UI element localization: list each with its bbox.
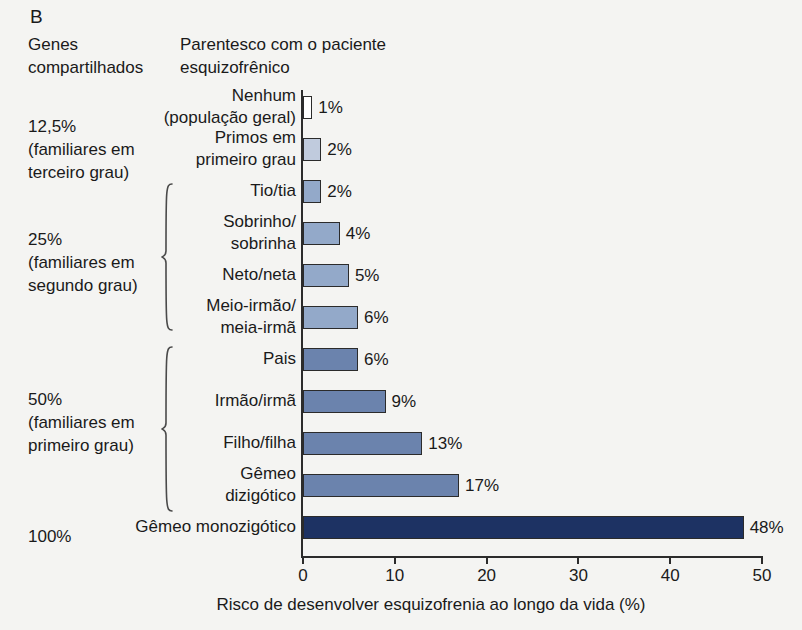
bar-value-label: 6% bbox=[364, 306, 389, 329]
bar bbox=[303, 516, 744, 539]
category-label: Sobrinho/ sobrinha bbox=[0, 211, 296, 255]
bar bbox=[303, 138, 321, 161]
bar bbox=[303, 474, 459, 497]
x-axis-tick bbox=[486, 556, 488, 564]
bar-value-label: 9% bbox=[392, 390, 417, 413]
bar bbox=[303, 390, 386, 413]
x-axis-line bbox=[303, 556, 762, 558]
bar bbox=[303, 432, 422, 455]
bar-value-label: 17% bbox=[465, 474, 499, 497]
x-axis-tick bbox=[761, 556, 763, 564]
bar-value-label: 2% bbox=[327, 180, 352, 203]
x-axis-tick-label: 40 bbox=[661, 566, 680, 586]
x-axis-tick-label: 10 bbox=[385, 566, 404, 586]
category-label: Nenhum (população geral) bbox=[0, 85, 296, 129]
bar bbox=[303, 180, 321, 203]
category-label: Gêmeo monozigótico bbox=[0, 516, 296, 538]
category-label: Primos em primeiro grau bbox=[0, 127, 296, 171]
bar-value-label: 4% bbox=[346, 222, 371, 245]
bar-value-label: 5% bbox=[355, 264, 380, 287]
bar-value-label: 1% bbox=[318, 96, 343, 119]
bar-value-label: 2% bbox=[327, 138, 352, 161]
category-label: Filho/filha bbox=[0, 432, 296, 454]
category-label: Tio/tia bbox=[0, 180, 296, 202]
x-axis-tick bbox=[577, 556, 579, 564]
bar bbox=[303, 264, 349, 287]
figure-panel-b: B Genes compartilhados Parentesco com o … bbox=[0, 0, 802, 630]
x-axis-tick bbox=[394, 556, 396, 564]
bar-value-label: 6% bbox=[364, 348, 389, 371]
bar bbox=[303, 96, 312, 119]
bar bbox=[303, 348, 358, 371]
category-label: Meio-irmão/ meia-irmã bbox=[0, 295, 296, 339]
bar bbox=[303, 222, 340, 245]
x-axis-tick-label: 20 bbox=[477, 566, 496, 586]
bar-chart-plot: Nenhum (população geral)Primos em primei… bbox=[0, 0, 802, 630]
bar-value-label: 13% bbox=[428, 432, 462, 455]
x-axis-title: Risco de desenvolver esquizofrenia ao lo… bbox=[0, 595, 802, 615]
x-axis-tick-label: 0 bbox=[298, 566, 307, 586]
category-label: Gêmeo dizigótico bbox=[0, 463, 296, 507]
x-axis-tick bbox=[302, 556, 304, 564]
x-axis-tick-label: 50 bbox=[753, 566, 772, 586]
y-axis-line bbox=[301, 90, 303, 558]
bar bbox=[303, 306, 358, 329]
x-axis-tick bbox=[669, 556, 671, 564]
category-label: Irmão/irmã bbox=[0, 390, 296, 412]
category-label: Neto/neta bbox=[0, 264, 296, 286]
category-label: Pais bbox=[0, 348, 296, 370]
x-axis-tick-label: 30 bbox=[569, 566, 588, 586]
bar-value-label: 48% bbox=[750, 516, 784, 539]
